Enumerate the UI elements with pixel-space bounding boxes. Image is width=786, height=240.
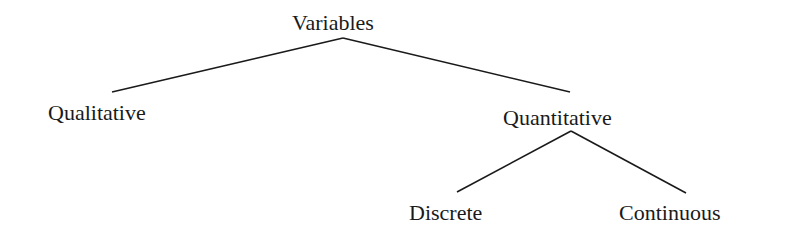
edge-quantitative-continuous [571, 131, 686, 193]
variables-tree-diagram: Variables Qualitative Quantitative Discr… [0, 0, 786, 240]
edge-variables-quantitative [343, 38, 570, 92]
node-quantitative: Quantitative [503, 107, 612, 129]
node-continuous: Continuous [619, 202, 720, 224]
node-discrete: Discrete [409, 202, 482, 224]
node-variables: Variables [292, 12, 374, 34]
edge-quantitative-discrete [457, 131, 571, 192]
node-qualitative: Qualitative [48, 102, 146, 124]
edge-variables-qualitative [112, 38, 343, 92]
